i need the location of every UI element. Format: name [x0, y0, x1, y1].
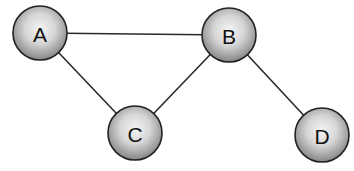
- node-label: B: [222, 25, 236, 48]
- node-c: C: [108, 106, 162, 160]
- node-a: A: [13, 6, 67, 60]
- edge-a-b: [40, 33, 229, 35]
- node-d: D: [295, 108, 349, 162]
- node-label: C: [127, 123, 142, 146]
- node-label: A: [33, 23, 47, 46]
- node-b: B: [202, 8, 256, 62]
- graph-diagram: ABCD: [0, 0, 354, 171]
- edges-group: [40, 33, 322, 135]
- graph-svg: ABCD: [0, 0, 354, 171]
- node-label: D: [314, 125, 329, 148]
